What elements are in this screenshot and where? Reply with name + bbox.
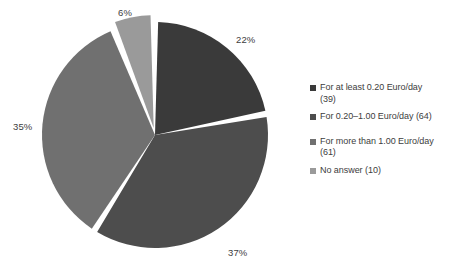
- legend-item-label: For 0.20–1.00 Euro/day (64): [320, 111, 432, 123]
- legend-swatch-icon: [310, 168, 316, 174]
- legend-item-label: For more than 1.00 Euro/day(61): [320, 136, 434, 159]
- legend-swatch-icon: [310, 85, 316, 91]
- chart-legend: For at least 0.20 Euro/day(39) For 0.20–…: [310, 82, 456, 182]
- pie-chart: 6% 22% 37% 35% For at least 0.20 Euro/da…: [0, 0, 458, 273]
- pie-slices: [42, 15, 268, 248]
- legend-item-at-least-020[interactable]: For at least 0.20 Euro/day(39): [310, 82, 456, 105]
- legend-item-label: For at least 0.20 Euro/day(39): [320, 82, 422, 105]
- legend-item-020-100[interactable]: For 0.20–1.00 Euro/day (64): [310, 111, 456, 123]
- slice-label-no-answer: 6%: [118, 8, 132, 18]
- legend-item-no-answer[interactable]: No answer (10): [310, 165, 456, 177]
- legend-swatch-icon: [310, 114, 316, 120]
- legend-item-more-than-100[interactable]: For more than 1.00 Euro/day(61): [310, 136, 456, 159]
- pie-plot-area: 6% 22% 37% 35%: [0, 0, 290, 273]
- slice-label-at-least-020: 22%: [236, 35, 255, 45]
- legend-swatch-icon: [310, 139, 316, 145]
- legend-item-label: No answer (10): [320, 165, 381, 177]
- slice-label-more-than-100: 35%: [13, 122, 32, 132]
- slice-label-020-100: 37%: [228, 248, 247, 258]
